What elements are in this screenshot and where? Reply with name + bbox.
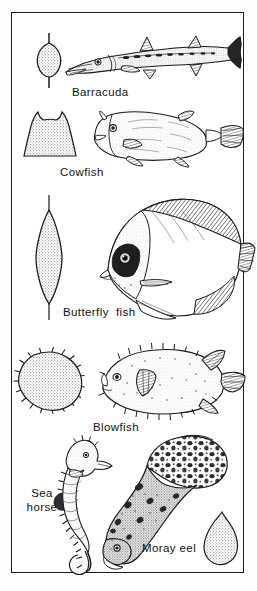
label-butterfly-fish: Butterfly fish — [63, 305, 135, 319]
label-barracuda: Barracuda — [72, 85, 129, 99]
label-moray-eel: Moray eel — [142, 541, 196, 555]
label-blowfish: Blowfish — [93, 420, 139, 434]
label-sea-horse: Sea horse — [14, 486, 70, 515]
illustration-plate: Barracuda Cowfish Butterfly fish Blowfis… — [0, 0, 257, 591]
label-cowfish: Cowfish — [60, 165, 104, 179]
